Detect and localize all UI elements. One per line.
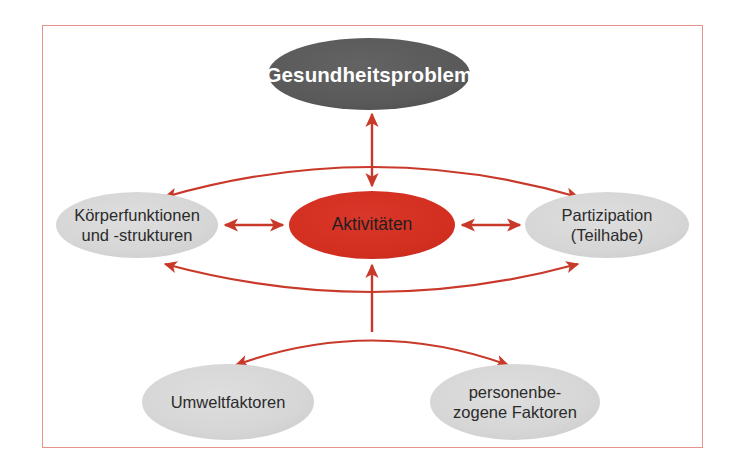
connector-environment-to-personal [236, 341, 508, 366]
diagram-canvas [0, 0, 735, 470]
node-body-functions[interactable] [56, 192, 218, 258]
node-activities[interactable] [289, 191, 455, 259]
node-participation[interactable] [525, 192, 689, 258]
node-personal-factors[interactable] [430, 364, 600, 440]
node-health-problem[interactable] [268, 38, 470, 110]
node-environmental-factors[interactable] [142, 364, 314, 440]
icf-diagram-page: Gesundheitsproblem Körperfunktionen und … [0, 0, 735, 470]
